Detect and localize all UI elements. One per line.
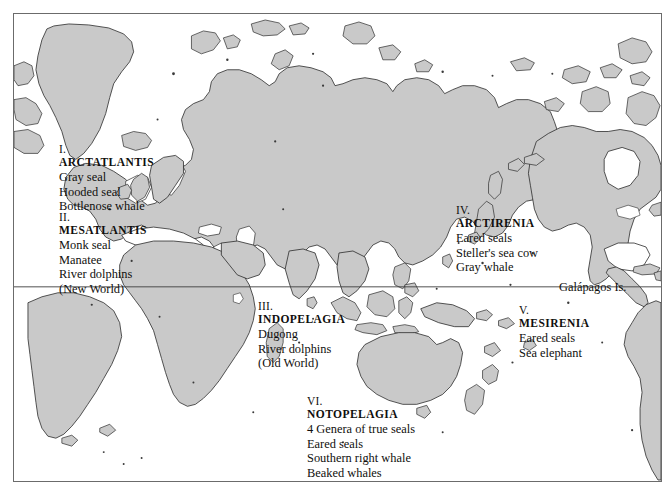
region-taxon: Southern right whale bbox=[307, 451, 415, 466]
landmass-arctic-isl-f bbox=[562, 66, 590, 84]
region-taxa-list: Eared seals Steller's sea cow Gray whale bbox=[456, 231, 538, 276]
landmass-ellesmere-island bbox=[618, 38, 652, 64]
island-speck bbox=[252, 411, 254, 413]
landmass-new-guinea bbox=[421, 303, 475, 327]
landmass-hispaniola bbox=[654, 271, 661, 281]
region-taxa-list: Gray seal Hooded seal Bottlenose whale bbox=[59, 170, 154, 215]
landmass-south-america-left bbox=[28, 293, 122, 438]
landmass-india bbox=[285, 249, 319, 299]
landmass-severnaya-zemlya bbox=[343, 22, 375, 44]
island-speck bbox=[492, 75, 494, 77]
landmass-falkland-isl bbox=[62, 435, 78, 446]
island-speck bbox=[441, 71, 443, 73]
island-speck bbox=[601, 342, 603, 344]
landmass-svalbard bbox=[191, 31, 220, 54]
landmass-arctic-island-a bbox=[14, 62, 34, 86]
region-taxon: Gray seal bbox=[59, 170, 154, 185]
island-speck bbox=[442, 431, 444, 433]
island-speck bbox=[91, 304, 93, 306]
island-speck bbox=[322, 85, 324, 87]
island-speck bbox=[509, 284, 511, 286]
landmass-new-caledonia bbox=[485, 343, 501, 357]
region-label-ii: II. MESATLANTIS Monk seal Manatee River … bbox=[59, 211, 147, 297]
landmass-new-zealand-north bbox=[483, 364, 499, 384]
region-taxon: Dugong bbox=[258, 327, 345, 342]
landmass-arctic-isl-d bbox=[289, 23, 309, 35]
region-taxon: River dolphins bbox=[59, 267, 147, 282]
island-speck bbox=[551, 73, 553, 75]
region-numeral: IV. bbox=[456, 204, 538, 217]
landmass-java bbox=[355, 323, 387, 335]
region-label-vi: VI. NOTOPELAGIA 4 Genera of true seals E… bbox=[307, 395, 415, 481]
landmass-south-georgia bbox=[100, 424, 116, 436]
landmass-new-zealand-south bbox=[465, 384, 485, 414]
region-taxon: (New World) bbox=[59, 282, 147, 297]
landmass-tasmania bbox=[417, 405, 431, 418]
map-frame: I. ARCTATLANTIS Gray seal Hooded seal Bo… bbox=[13, 13, 662, 482]
region-name: NOTOPELAGIA bbox=[307, 408, 415, 421]
region-numeral: I. bbox=[59, 143, 154, 156]
region-taxon: Beaked whales bbox=[307, 466, 415, 481]
landmass-arctic-island-c bbox=[14, 130, 44, 154]
island-speck bbox=[226, 59, 228, 61]
landmass-franz-josef bbox=[251, 20, 285, 36]
map-root: I. ARCTATLANTIS Gray seal Hooded seal Bo… bbox=[0, 0, 672, 497]
island-speck bbox=[274, 140, 276, 142]
region-taxon: (Old World) bbox=[258, 356, 345, 371]
region-taxon: Eared seals bbox=[456, 231, 538, 246]
landmass-new-siberian-isl bbox=[415, 60, 433, 72]
island-speck bbox=[123, 463, 125, 465]
landmass-philippines-south bbox=[405, 283, 419, 297]
region-label-i: I. ARCTATLANTIS Gray seal Hooded seal Bo… bbox=[59, 143, 154, 214]
region-numeral: II. bbox=[59, 211, 147, 224]
landmass-baffin-island bbox=[626, 92, 660, 126]
region-taxon: Eared seals bbox=[519, 331, 590, 346]
region-taxon: Gray whale bbox=[456, 260, 538, 275]
landmass-arctic-isl-i bbox=[630, 72, 650, 86]
region-name: INDOPELAGIA bbox=[258, 313, 345, 326]
island-speck bbox=[436, 288, 438, 290]
island-speck bbox=[157, 119, 159, 121]
landmass-borneo bbox=[367, 291, 395, 317]
region-label-iv: IV. ARCTIRENIA Eared seals Steller's sea… bbox=[456, 204, 538, 275]
island-speck bbox=[159, 316, 161, 318]
region-taxon: Sea elephant bbox=[519, 346, 590, 361]
region-taxon: Manatee bbox=[59, 253, 147, 268]
landmass-arctic-isl-g bbox=[600, 64, 622, 78]
landmass-solomon-isl bbox=[499, 318, 515, 329]
landmass-victoria-island bbox=[580, 87, 610, 112]
island-speck bbox=[511, 361, 513, 363]
region-name: ARCTATLANTIS bbox=[59, 156, 154, 169]
landmass-wrangel-isl bbox=[510, 58, 534, 71]
island-speck bbox=[172, 72, 175, 75]
region-numeral: VI. bbox=[307, 395, 415, 408]
landmass-south-america bbox=[624, 301, 661, 480]
region-taxa-list: 4 Genera of true seals Eared seals South… bbox=[307, 422, 415, 482]
landmass-arctic-island-b bbox=[14, 98, 42, 126]
landmass-australia bbox=[357, 333, 463, 405]
island-speck bbox=[192, 381, 194, 383]
region-taxon: Steller's sea cow bbox=[456, 246, 538, 261]
region-taxa-list: Monk seal Manatee River dolphins (New Wo… bbox=[59, 238, 147, 298]
region-numeral: III. bbox=[258, 300, 345, 313]
landmass-greenland bbox=[36, 24, 134, 159]
landmass-sulawesi bbox=[399, 297, 413, 319]
region-numeral: V. bbox=[519, 304, 590, 317]
island-speck bbox=[103, 451, 105, 453]
region-taxon: Hooded seal bbox=[59, 185, 154, 200]
landmass-arctic-isl-h bbox=[544, 98, 564, 112]
region-taxon: 4 Genera of true seals bbox=[307, 422, 415, 437]
region-name: MESATLANTIS bbox=[59, 224, 147, 237]
landmass-arctic-isl-e bbox=[379, 45, 401, 60]
region-taxa-list: Eared seals Sea elephant bbox=[519, 331, 590, 361]
region-label-v: V. MESIRENIA Eared seals Sea elephant bbox=[519, 304, 590, 360]
place-label-galapagos: Galápagos Is. bbox=[559, 280, 626, 295]
region-taxon: Monk seal bbox=[59, 238, 147, 253]
island-speck bbox=[631, 429, 633, 431]
region-name: MESIRENIA bbox=[519, 317, 590, 330]
region-name: ARCTIRENIA bbox=[456, 217, 538, 230]
region-taxa-list: Dugong River dolphins (Old World) bbox=[258, 327, 345, 372]
landmass-newfoundland bbox=[649, 202, 661, 216]
landmass-taiwan bbox=[443, 254, 453, 268]
landmass-indochina bbox=[337, 251, 369, 297]
